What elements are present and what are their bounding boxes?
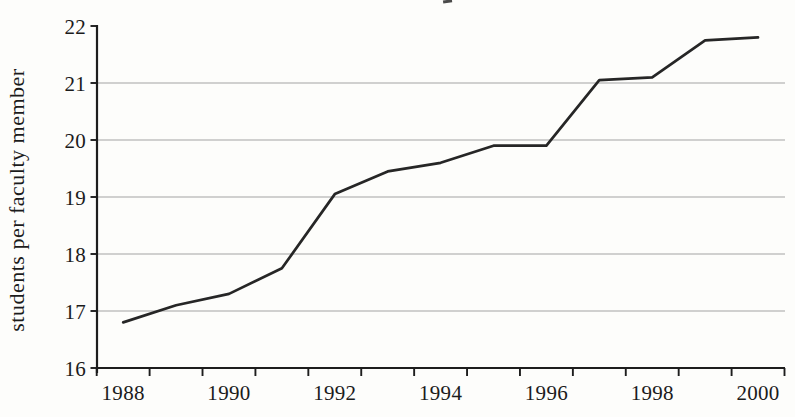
data-line-students-per-faculty (123, 37, 758, 322)
y-tick-label: 21 (64, 72, 86, 96)
page-edge-artifact (443, 0, 452, 4)
y-tick-label: 17 (64, 300, 86, 324)
x-tick-label: 1998 (631, 381, 674, 405)
y-tick-label: 20 (64, 129, 86, 153)
y-axis-title: students per faculty member (4, 68, 29, 332)
x-tick-label: 2000 (736, 381, 779, 405)
line-chart-svg: 1617181920212219881990199219941996199820… (0, 0, 795, 417)
x-tick-label: 1996 (525, 381, 568, 405)
x-tick-label: 1994 (419, 381, 462, 405)
x-tick-label: 1990 (207, 381, 250, 405)
x-tick-label: 1992 (313, 381, 356, 405)
y-tick-label: 18 (64, 243, 86, 267)
y-tick-label: 22 (64, 15, 86, 39)
figure: 1617181920212219881990199219941996199820… (0, 0, 795, 417)
y-tick-label: 19 (64, 186, 86, 210)
x-tick-label: 1988 (102, 381, 145, 405)
y-tick-label: 16 (64, 357, 86, 381)
